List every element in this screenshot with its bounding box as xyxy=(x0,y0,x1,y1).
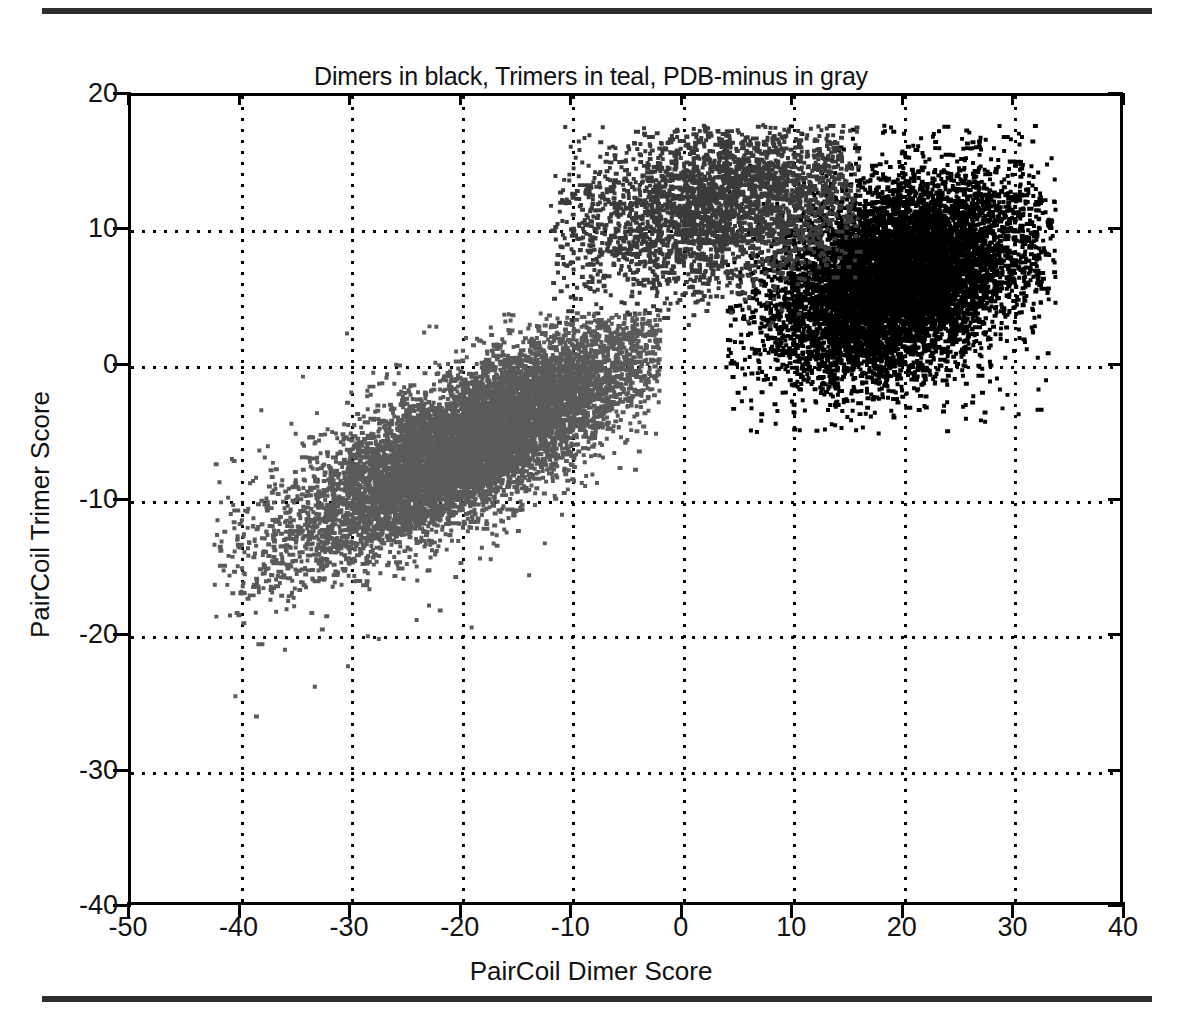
x-axis-tick-label: 30 xyxy=(997,912,1027,943)
y-axis-tick-label: -30 xyxy=(79,754,118,785)
figure-page: Dimers in black, Trimers in teal, PDB-mi… xyxy=(0,0,1182,1020)
x-axis-tick-mark-top xyxy=(680,93,683,105)
y-axis-tick-mark-right xyxy=(1108,633,1123,636)
y-axis-tick-label: 20 xyxy=(88,78,118,109)
x-axis-tick-label: 0 xyxy=(673,912,688,943)
x-axis-tick-label: -40 xyxy=(219,912,258,943)
y-axis-tick-label: -20 xyxy=(79,619,118,650)
y-axis-tick-mark-right xyxy=(1108,769,1123,772)
y-axis-tick-label: -10 xyxy=(79,484,118,515)
x-axis-tick-mark-top xyxy=(790,93,793,105)
x-axis-tick-label: 10 xyxy=(776,912,806,943)
bottom-divider-rule xyxy=(42,996,1152,1002)
x-axis-tick-label: 20 xyxy=(887,912,917,943)
y-axis-tick-mark-right xyxy=(1108,227,1123,230)
y-axis-label: PairCoil Trimer Score xyxy=(25,315,56,715)
x-axis-tick-label: -30 xyxy=(330,912,369,943)
y-axis-tick-mark-right xyxy=(1108,904,1123,907)
x-axis-tick-mark-top xyxy=(1011,93,1014,105)
x-axis-tick-label: -10 xyxy=(551,912,590,943)
plot-area xyxy=(128,93,1123,905)
x-axis-tick-mark-top xyxy=(569,93,572,105)
series-pdb-minus xyxy=(213,311,663,718)
x-axis-label: PairCoil Dimer Score xyxy=(0,956,1182,987)
y-axis-tick-mark-right xyxy=(1108,92,1123,95)
series-marker-path xyxy=(213,311,663,718)
x-axis-tick-mark-top xyxy=(238,93,241,105)
y-axis-tick-mark-right xyxy=(1108,363,1123,366)
x-axis-tick-mark-top xyxy=(1122,93,1125,105)
x-axis-tick-label: 40 xyxy=(1108,912,1138,943)
scatter-points-layer xyxy=(131,96,1120,902)
x-axis-tick-label: -50 xyxy=(108,912,147,943)
scatter-figure: Dimers in black, Trimers in teal, PDB-mi… xyxy=(0,20,1182,980)
x-axis-tick-mark-top xyxy=(901,93,904,105)
x-axis-tick-mark-top xyxy=(459,93,462,105)
y-axis-tick-label: 0 xyxy=(103,348,118,379)
x-axis-tick-mark-top xyxy=(127,93,130,105)
y-axis-tick-label: 10 xyxy=(88,213,118,244)
x-axis-tick-label: -20 xyxy=(440,912,479,943)
x-axis-tick-mark-top xyxy=(348,93,351,105)
chart-title: Dimers in black, Trimers in teal, PDB-mi… xyxy=(0,62,1182,91)
y-axis-tick-mark-right xyxy=(1108,498,1123,501)
top-divider-rule xyxy=(42,8,1152,14)
